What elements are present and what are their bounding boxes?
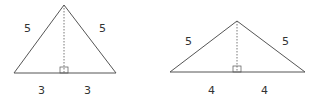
- isosceles-triangles-diagram: 5 5 3 3 5 5 4 4: [0, 0, 316, 102]
- triangle-1: 5 5 3 3: [14, 5, 116, 97]
- triangle-1-right-side-label: 5: [99, 22, 106, 35]
- triangle-2-left-side-label: 5: [185, 35, 192, 48]
- triangle-2-left-half-label: 4: [208, 84, 215, 97]
- triangle-1-outline: [14, 5, 116, 73]
- triangle-1-left-side-label: 5: [24, 22, 31, 35]
- triangle-2-right-side-label: 5: [282, 35, 289, 48]
- triangle-1-right-half-label: 3: [84, 84, 91, 97]
- triangle-2: 5 5 4 4: [170, 21, 305, 97]
- triangle-2-right-half-label: 4: [261, 84, 268, 97]
- triangle-1-left-half-label: 3: [38, 84, 45, 97]
